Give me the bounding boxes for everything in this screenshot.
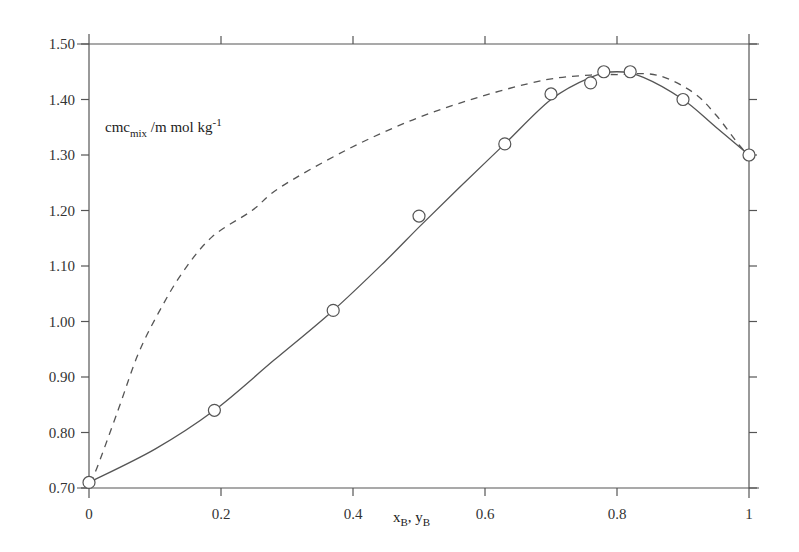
data-point-marker bbox=[743, 149, 755, 161]
data-point-marker bbox=[327, 304, 339, 316]
data-point-marker bbox=[208, 404, 220, 416]
x-axis-title: xB, yB bbox=[393, 509, 430, 528]
data-point-marker bbox=[499, 138, 511, 150]
x-tick-label: 0.4 bbox=[344, 506, 363, 522]
data-point-marker bbox=[585, 77, 597, 89]
data-point-marker bbox=[83, 476, 95, 488]
chart: 00.20.40.60.81 0.700.800.901.001.101.201… bbox=[0, 0, 799, 552]
y-tick-label: 1.20 bbox=[49, 203, 75, 219]
data-point-marker bbox=[413, 210, 425, 222]
y-axis-title: cmcmix /m mol kg-1 bbox=[105, 116, 222, 139]
y-tick-label: 0.70 bbox=[49, 480, 75, 496]
x-tick-label: 1 bbox=[745, 506, 753, 522]
x-tick-label: 0 bbox=[85, 506, 93, 522]
x-tick-label: 0.8 bbox=[608, 506, 627, 522]
y-tick-label: 0.80 bbox=[49, 425, 75, 441]
data-point-marker bbox=[598, 66, 610, 78]
y-axis-tick-labels: 0.700.800.901.001.101.201.301.401.50 bbox=[49, 36, 75, 496]
y-tick-label: 1.10 bbox=[49, 258, 75, 274]
data-point-marker bbox=[624, 66, 636, 78]
y-tick-label: 1.40 bbox=[49, 92, 75, 108]
axis-ticks bbox=[81, 36, 757, 496]
data-point-marker bbox=[545, 88, 557, 100]
plot-frame bbox=[77, 34, 759, 498]
y-tick-label: 1.30 bbox=[49, 147, 75, 163]
y-tick-label: 1.00 bbox=[49, 314, 75, 330]
data-point-marker bbox=[677, 94, 689, 106]
y-tick-label: 0.90 bbox=[49, 369, 75, 385]
x-tick-label: 0.2 bbox=[212, 506, 231, 522]
x-tick-label: 0.6 bbox=[476, 506, 495, 522]
y-tick-label: 1.50 bbox=[49, 36, 75, 52]
